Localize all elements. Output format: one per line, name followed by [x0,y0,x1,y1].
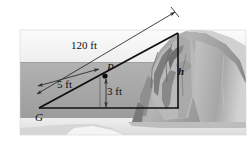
label-hypotenuse-length: 120 ft [71,40,97,51]
cliff-height-figure: 120 ft 5 ft 3 ft h P G [0,0,252,149]
label-partial-length: 5 ft [57,79,72,90]
label-vertical-offset: 3 ft [107,86,122,97]
figure-illustration [0,0,252,149]
label-point-p: P [107,62,114,73]
point-p-marker [102,73,107,78]
label-cliff-height-symbol: h [178,66,184,77]
label-point-g: G [35,112,43,123]
